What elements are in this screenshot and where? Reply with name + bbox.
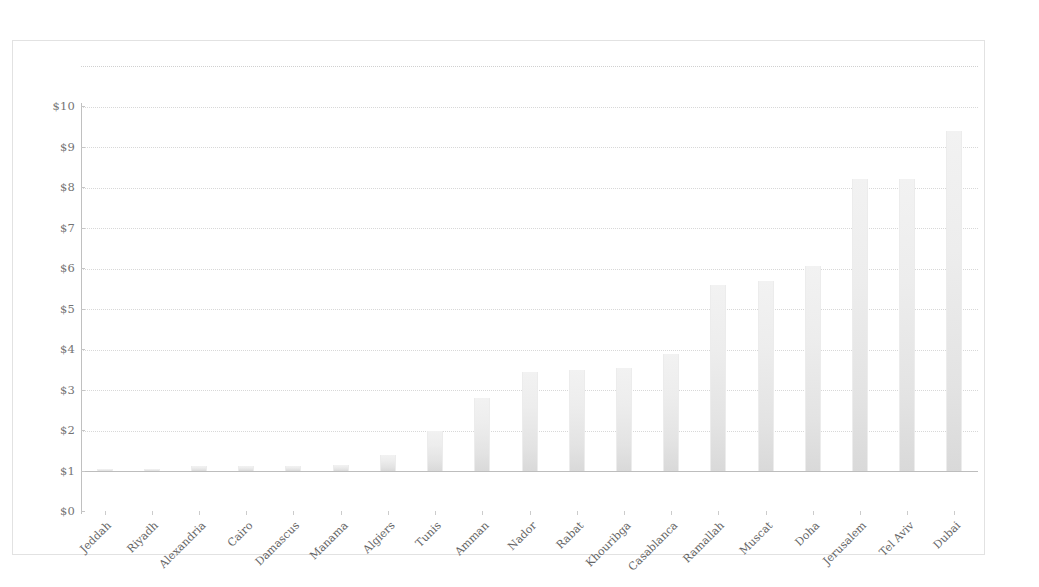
x-tick-mark xyxy=(199,511,200,515)
bar-tel-aviv xyxy=(899,179,915,471)
x-tick-mark xyxy=(341,511,342,515)
bar-algiers xyxy=(380,455,396,471)
bar-doha xyxy=(805,266,821,471)
x-tick-label-doha: Doha xyxy=(792,519,822,549)
y-tick-mark xyxy=(81,430,85,431)
gridline-3 xyxy=(81,350,978,351)
x-tick-label-muscat: Muscat xyxy=(737,519,775,557)
y-axis-tick-labels: $10$9$8$7$6$5$4$3$2$1$0 xyxy=(27,106,75,511)
x-tick-mark xyxy=(577,511,578,515)
y-tick-label: $10 xyxy=(31,99,75,113)
y-tick-label: $1 xyxy=(31,464,75,478)
y-tick-mark xyxy=(81,390,85,391)
y-tick-mark xyxy=(81,187,85,188)
x-tick-label-damascus: Damascus xyxy=(253,519,302,568)
gridline-0 xyxy=(81,471,978,472)
y-tick-label: $0 xyxy=(31,504,75,518)
plot-area xyxy=(81,66,978,471)
x-tick-mark xyxy=(293,511,294,515)
x-tick-mark xyxy=(860,511,861,515)
bar-dubai xyxy=(946,131,962,471)
bar-alexandria xyxy=(191,466,207,471)
y-tick-mark xyxy=(81,147,85,148)
x-tick-label-nador: Nador xyxy=(505,519,539,553)
bar-tunis xyxy=(427,431,443,472)
chart-figure-frame: $10$9$8$7$6$5$4$3$2$1$0 JeddahRiyadhAlex… xyxy=(12,40,985,555)
gridline-10 xyxy=(81,66,978,67)
bar-jerusalem xyxy=(852,179,868,471)
bar-ramallah xyxy=(710,285,726,471)
y-tick-mark xyxy=(81,106,85,107)
y-tick-mark xyxy=(81,471,85,472)
x-tick-label-manama: Manama xyxy=(307,519,350,562)
x-tick-mark xyxy=(388,511,389,515)
x-tick-label-casablanca: Casablanca xyxy=(626,519,681,574)
x-tick-label-khouribga: Khouribga xyxy=(583,519,634,570)
bar-khouribga xyxy=(616,368,632,471)
x-tick-label-alexandria: Alexandria xyxy=(157,519,209,571)
x-tick-mark xyxy=(530,511,531,515)
bar-riyadh xyxy=(144,469,160,471)
gridline-9 xyxy=(81,107,978,108)
y-tick-label: $9 xyxy=(31,140,75,154)
gridline-7 xyxy=(81,188,978,189)
x-tick-mark xyxy=(152,511,153,515)
y-tick-mark xyxy=(81,349,85,350)
x-tick-label-tel-aviv: Tel Aviv xyxy=(877,519,917,559)
bar-manama xyxy=(333,465,349,471)
x-tick-mark xyxy=(105,511,106,515)
x-tick-label-dubai: Dubai xyxy=(931,519,964,552)
gridline-4 xyxy=(81,309,978,310)
y-tick-label: $8 xyxy=(31,180,75,194)
gridline-8 xyxy=(81,147,978,148)
x-tick-label-algiers: Algiers xyxy=(360,519,397,556)
y-tick-label: $3 xyxy=(31,383,75,397)
y-tick-label: $2 xyxy=(31,423,75,437)
bar-damascus xyxy=(285,466,301,471)
y-tick-label: $4 xyxy=(31,342,75,356)
gridline-6 xyxy=(81,228,978,229)
bar-jeddah xyxy=(97,469,113,471)
x-tick-mark xyxy=(435,511,436,515)
y-tick-label: $6 xyxy=(31,261,75,275)
y-tick-mark xyxy=(81,309,85,310)
x-tick-mark xyxy=(246,511,247,515)
x-tick-mark xyxy=(482,511,483,515)
x-tick-mark xyxy=(671,511,672,515)
y-tick-mark xyxy=(81,268,85,269)
y-tick-label: $5 xyxy=(31,302,75,316)
x-tick-mark xyxy=(954,511,955,515)
x-axis-tick-labels: JeddahRiyadhAlexandriaCairoDamascusManam… xyxy=(81,511,978,587)
x-tick-label-jeddah: Jeddah xyxy=(77,519,114,556)
x-tick-label-rabat: Rabat xyxy=(553,519,586,552)
x-tick-mark xyxy=(907,511,908,515)
x-tick-label-tunis: Tunis xyxy=(413,519,444,550)
y-tick-mark xyxy=(81,228,85,229)
x-tick-label-amman: Amman xyxy=(453,519,492,558)
y-tick-label: $7 xyxy=(31,221,75,235)
x-tick-mark xyxy=(813,511,814,515)
x-tick-mark xyxy=(718,511,719,515)
bar-rabat xyxy=(569,370,585,471)
x-tick-mark xyxy=(624,511,625,515)
x-tick-mark xyxy=(766,511,767,515)
x-tick-label-cairo: Cairo xyxy=(225,519,256,550)
x-tick-label-ramallah: Ramallah xyxy=(681,519,728,566)
x-tick-label-riyadh: Riyadh xyxy=(124,519,161,556)
bar-cairo xyxy=(238,466,254,471)
gridline-5 xyxy=(81,269,978,270)
bar-muscat xyxy=(758,281,774,471)
bar-casablanca xyxy=(663,354,679,471)
bar-nador xyxy=(522,372,538,471)
x-tick-label-jerusalem: Jerusalem xyxy=(820,519,869,568)
bar-amman xyxy=(474,398,490,471)
